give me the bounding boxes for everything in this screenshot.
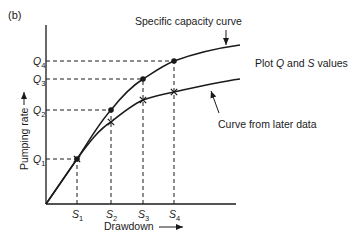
specific-capacity-point [140,76,146,82]
x-tick-s4: S4 [169,208,180,223]
annotation-suffix: values [315,57,348,69]
y-tick-q3: Q3 [33,73,45,88]
y-axis-title: Pumping rate [18,107,30,170]
later-data-pointer-icon [211,91,219,113]
annotation-q: Q [276,57,284,69]
specific-capacity-point [171,58,177,64]
y-tick-q1: Q1 [33,153,45,168]
y-tick-labels: Q1Q2Q3Q4 [33,55,45,168]
y-tick-q4: Q4 [33,55,45,70]
annotation-prefix: Plot [255,57,276,69]
specific-capacity-label: Specific capacity curve [135,15,242,27]
plot-annotation: Plot Q and S values [255,57,348,69]
x-tick-s1: S1 [72,208,83,223]
drawdown-diagram: (b) Q1Q2Q3Q4 S1S2S3S4 Pumping rate Drawd… [0,0,356,247]
dashed-guides [46,61,174,204]
panel-label: (b) [8,9,21,21]
specific-capacity-point [108,107,114,113]
x-axis-title: Drawdown [104,220,154,232]
annotation-mid: and [284,57,307,69]
annotation-s: S [308,57,315,69]
y-tick-q2: Q2 [33,104,45,119]
later-data-label: Curve from later data [218,118,317,130]
